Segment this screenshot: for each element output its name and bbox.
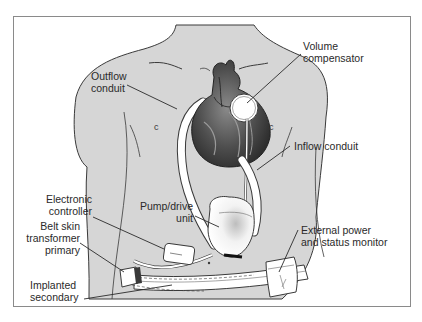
external-power-monitor-shape <box>266 257 297 297</box>
label-pump-drive-unit: Pump/drive unit <box>129 200 193 224</box>
label-external-power-status-monitor: External power and status monitor <box>301 224 387 248</box>
label-volume-compensator: Volume compensator <box>303 40 364 64</box>
label-inflow-conduit: Inflow conduit <box>294 140 358 152</box>
label-electronic-controller: Electronic controller <box>30 193 92 217</box>
svg-text:c: c <box>154 122 159 132</box>
label-outflow-conduit: Outflow conduit <box>91 70 127 94</box>
diagram-frame: c c <box>13 16 411 307</box>
label-belt-skin-transformer-primary: Belt skin transformer primary <box>18 220 80 256</box>
label-implanted-secondary: Implanted secondary <box>30 279 78 303</box>
electronic-controller-shape <box>163 243 195 265</box>
